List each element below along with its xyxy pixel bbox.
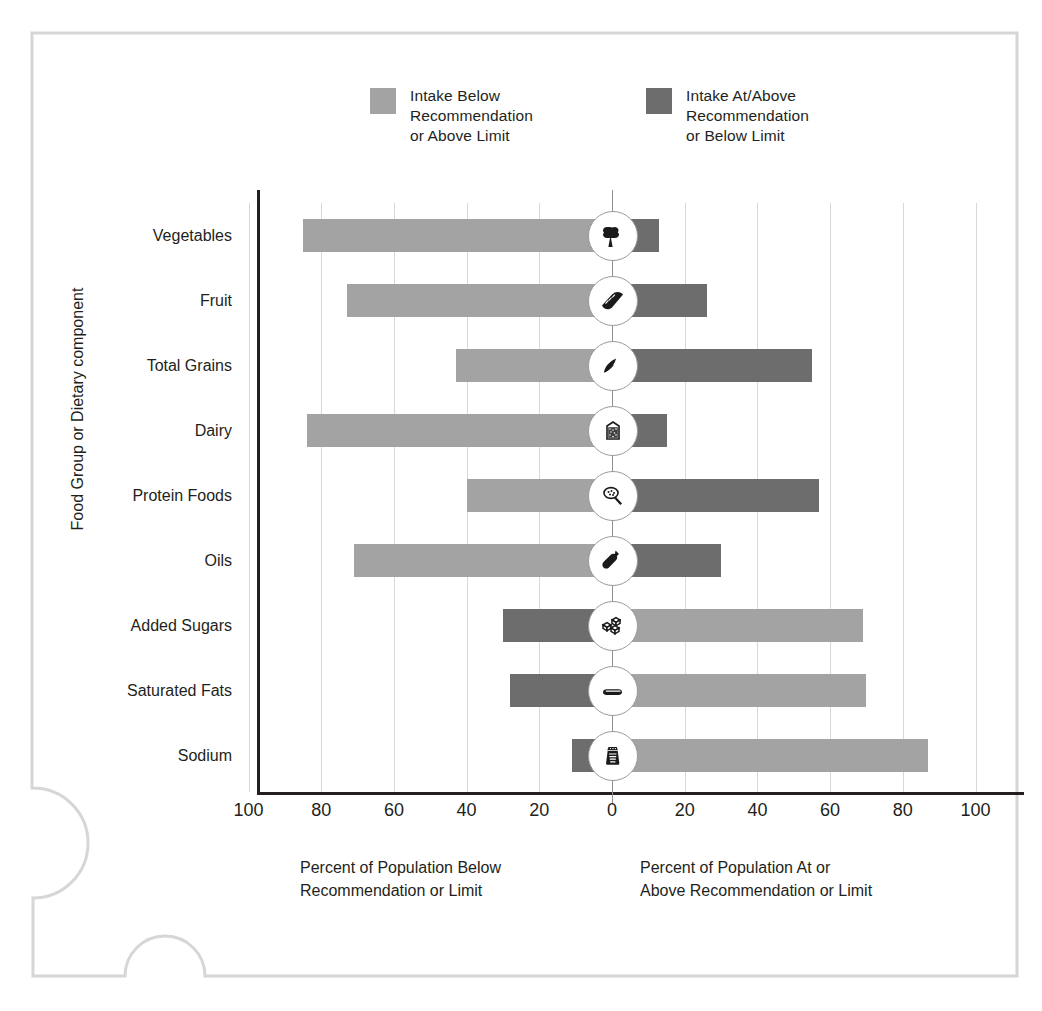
- bar-row: [258, 203, 1025, 268]
- orange-slice-icon: [588, 276, 638, 326]
- legend-swatch-light-gray: [370, 88, 396, 114]
- chart-legend: Intake Below Recommendation or Above Lim…: [370, 86, 890, 166]
- chart-container: Intake Below Recommendation or Above Lim…: [0, 0, 1042, 1011]
- milk-carton-icon: [588, 406, 638, 456]
- bar-row: [258, 463, 1025, 528]
- bar-row: [258, 398, 1025, 463]
- bar-row: [258, 593, 1025, 658]
- salt-shaker-icon: [588, 731, 638, 781]
- y-axis-label-added-sugars: Added Sugars: [2, 616, 232, 636]
- y-axis-label-saturated-fats: Saturated Fats: [2, 681, 232, 701]
- x-axis-tick: 20: [509, 800, 569, 821]
- bar-row: [258, 268, 1025, 333]
- bar-row: [258, 528, 1025, 593]
- x-axis-tick: 100: [219, 800, 279, 821]
- x-axis-tick: 80: [291, 800, 351, 821]
- legend-label-below-recommendation: Intake Below Recommendation or Above Lim…: [410, 86, 533, 146]
- sugar-cubes-icon: [588, 601, 638, 651]
- bar-segment-left[interactable]: [347, 284, 612, 317]
- bar-segment-right[interactable]: [612, 609, 863, 642]
- broccoli-icon: [588, 211, 638, 261]
- x-axis-tick: 60: [800, 800, 860, 821]
- y-axis-label-vegetables: Vegetables: [2, 226, 232, 246]
- oil-bottle-icon: [588, 536, 638, 586]
- bar-row: [258, 723, 1025, 788]
- bar-segment-left[interactable]: [303, 219, 612, 252]
- bar-segment-right[interactable]: [612, 674, 866, 707]
- y-axis-label-dairy: Dairy: [2, 421, 232, 441]
- x-axis-tick: 40: [437, 800, 497, 821]
- x-axis-tick: 100: [946, 800, 1006, 821]
- bar-segment-left[interactable]: [354, 544, 612, 577]
- butter-stick-icon: [588, 666, 638, 716]
- grain-bread-icon: [588, 341, 638, 391]
- x-axis-caption-right: Percent of Population At or Above Recomm…: [640, 856, 970, 902]
- x-axis-tick: 60: [364, 800, 424, 821]
- x-axis-tick-labels: 10080604020020406080100: [258, 800, 1025, 826]
- bar-row: [258, 333, 1025, 398]
- gridline: [249, 203, 250, 792]
- legend-item-below-recommendation[interactable]: Intake Below Recommendation or Above Lim…: [370, 86, 533, 146]
- y-axis-label-total-grains: Total Grains: [2, 356, 232, 376]
- y-axis-label-fruit: Fruit: [2, 291, 232, 311]
- legend-swatch-dark-gray: [646, 88, 672, 114]
- bar-segment-right[interactable]: [612, 739, 928, 772]
- y-axis-label-sodium: Sodium: [2, 746, 232, 766]
- y-axis-tick-labels: VegetablesFruitTotal GrainsDairyProtein …: [0, 203, 248, 792]
- x-axis-tick: 20: [655, 800, 715, 821]
- bar-segment-right[interactable]: [612, 349, 812, 382]
- legend-label-at-above-recommendation: Intake At/Above Recommendation or Below …: [686, 86, 809, 146]
- plot-area: [258, 203, 1025, 792]
- bar-segment-right[interactable]: [612, 479, 819, 512]
- y-axis-label-protein-foods: Protein Foods: [2, 486, 232, 506]
- protein-meat-icon: [588, 471, 638, 521]
- bar-row: [258, 658, 1025, 723]
- legend-item-at-above-recommendation[interactable]: Intake At/Above Recommendation or Below …: [646, 86, 809, 146]
- bar-segment-left[interactable]: [307, 414, 612, 447]
- x-axis-tick: 0: [582, 800, 642, 821]
- x-axis-tick: 80: [873, 800, 933, 821]
- x-axis-tick: 40: [727, 800, 787, 821]
- y-axis-label-oils: Oils: [2, 551, 232, 571]
- x-axis-line: [257, 792, 1024, 795]
- x-axis-caption-left: Percent of Population Below Recommendati…: [300, 856, 600, 902]
